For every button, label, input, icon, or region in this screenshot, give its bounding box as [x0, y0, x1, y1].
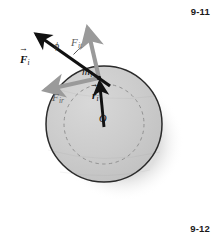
label-point-mass-base: m — [82, 65, 90, 77]
label-force-radial-sub: ir — [59, 96, 64, 105]
label-point-mass: mi — [82, 62, 92, 78]
figure-number-bottom: 9-12 — [190, 223, 210, 234]
label-angle-phi: ϕ — [54, 41, 59, 51]
label-force-tangential: Fit — [71, 33, 82, 49]
label-force-tangential-base: F — [71, 36, 78, 48]
figure-container: 9-11 9-12 → F i Fit Fir → r i mi ϕ O — [0, 0, 217, 240]
label-position-radius-base: r — [92, 89, 96, 101]
vector-accent-position-radius: → — [89, 80, 98, 89]
label-position-radius: → r i — [92, 86, 99, 102]
label-force-radial-base: F — [52, 91, 59, 103]
physics-diagram-canvas — [0, 0, 217, 240]
label-force-tangential-sub: it — [78, 41, 82, 50]
label-force-total-sub: i — [28, 58, 30, 67]
vector-accent-force-total: → — [19, 44, 28, 53]
label-force-radial: Fir — [52, 88, 64, 104]
label-force-total-base: F — [20, 53, 27, 65]
label-origin: O — [99, 114, 107, 125]
label-position-radius-sub: i — [96, 94, 98, 103]
figure-number-top: 9-11 — [191, 6, 210, 17]
label-point-mass-sub: i — [90, 70, 92, 79]
label-force-total: → F i — [20, 50, 30, 66]
